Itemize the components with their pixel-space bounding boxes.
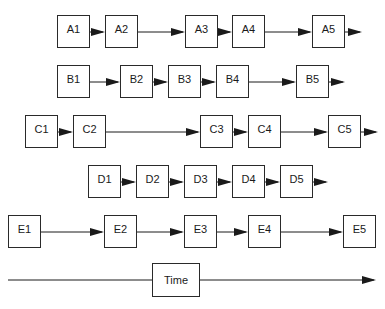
arrow-c5-out-arrowhead-icon — [364, 128, 378, 136]
arrow-c3-to-c4-arrowhead-icon — [234, 128, 248, 136]
process-box-label: A2 — [115, 23, 128, 35]
process-box-c2: C2 — [73, 115, 106, 148]
process-box-label: E3 — [194, 223, 207, 235]
process-box-label: A1 — [67, 23, 80, 35]
process-box-label: C5 — [337, 123, 351, 135]
process-box-d3: D3 — [184, 165, 217, 198]
process-box-label: A3 — [195, 23, 208, 35]
process-box-label: D1 — [97, 173, 111, 185]
arrow-b1-to-b2-arrowhead-icon — [106, 78, 120, 86]
process-box-label: C1 — [34, 123, 48, 135]
process-box-b2: B2 — [120, 65, 153, 98]
process-box-d5: D5 — [280, 165, 313, 198]
process-box-label: C2 — [82, 123, 96, 135]
process-box-e3: E3 — [184, 215, 217, 248]
process-box-label: D4 — [241, 173, 255, 185]
process-box-label: C3 — [209, 123, 223, 135]
process-box-c5: C5 — [328, 115, 361, 148]
arrow-b3-to-b4-arrowhead-icon — [202, 78, 216, 86]
process-box-e5: E5 — [343, 215, 376, 248]
process-box-a5: A5 — [312, 15, 345, 48]
process-box-label: C4 — [257, 123, 271, 135]
process-box-label: B1 — [67, 73, 80, 85]
process-box-label: B3 — [178, 73, 191, 85]
process-box-d2: D2 — [136, 165, 169, 198]
arrow-d2-to-d3-arrowhead-icon — [170, 178, 184, 186]
arrow-e3-to-e4-arrowhead-icon — [234, 228, 248, 236]
process-box-b3: B3 — [168, 65, 201, 98]
arrow-c1-to-c2-arrowhead-icon — [59, 128, 73, 136]
arrow-b2-to-b3-arrowhead-icon — [154, 78, 168, 86]
time-label: Time — [164, 274, 188, 286]
process-box-label: D5 — [289, 173, 303, 185]
process-box-label: D2 — [145, 173, 159, 185]
arrow-a5-out-arrowhead-icon — [348, 28, 362, 36]
arrow-e1-to-e2-arrowhead-icon — [90, 228, 104, 236]
process-box-a2: A2 — [105, 15, 138, 48]
time-axis-arrowhead-icon — [362, 276, 376, 284]
process-box-c1: C1 — [25, 115, 58, 148]
process-box-label: B4 — [226, 73, 239, 85]
arrow-b4-to-b5-arrowhead-icon — [282, 78, 296, 86]
process-box-label: A4 — [242, 23, 255, 35]
process-box-e4: E4 — [248, 215, 281, 248]
process-box-label: D3 — [193, 173, 207, 185]
process-box-label: E4 — [258, 223, 271, 235]
process-box-e2: E2 — [104, 215, 137, 248]
process-box-label: E1 — [18, 223, 31, 235]
process-box-a4: A4 — [232, 15, 265, 48]
process-box-c4: C4 — [248, 115, 281, 148]
time-label-box: Time — [152, 263, 200, 297]
arrow-a1-to-a2-arrowhead-icon — [91, 28, 105, 36]
arrow-d5-out-arrowhead-icon — [314, 178, 328, 186]
arrow-c2-to-c3-arrowhead-icon — [186, 128, 200, 136]
arrow-a2-to-a3-arrowhead-icon — [171, 28, 185, 36]
arrow-e4-to-e5-arrowhead-icon — [329, 228, 343, 236]
process-box-a3: A3 — [185, 15, 218, 48]
arrow-d1-to-d2-arrowhead-icon — [122, 178, 136, 186]
process-box-label: A5 — [322, 23, 335, 35]
arrow-e2-to-e3-arrowhead-icon — [170, 228, 184, 236]
process-box-label: E2 — [114, 223, 127, 235]
arrow-d3-to-d4-arrowhead-icon — [218, 178, 232, 186]
arrow-a3-to-a4-arrowhead-icon — [218, 28, 232, 36]
process-box-e1: E1 — [8, 215, 41, 248]
process-box-d1: D1 — [88, 165, 121, 198]
process-box-b4: B4 — [216, 65, 249, 98]
arrow-a4-to-a5-arrowhead-icon — [298, 28, 312, 36]
process-box-label: E5 — [353, 223, 366, 235]
process-box-label: B5 — [306, 73, 319, 85]
process-box-b5: B5 — [296, 65, 329, 98]
diagram-canvas: A1A2A3A4A5B1B2B3B4B5C1C2C3C4C5D1D2D3D4D5… — [0, 0, 385, 309]
process-box-b1: B1 — [57, 65, 90, 98]
arrow-d4-to-d5-arrowhead-icon — [266, 178, 280, 186]
process-box-a1: A1 — [57, 15, 90, 48]
process-box-c3: C3 — [200, 115, 233, 148]
process-box-d4: D4 — [232, 165, 265, 198]
process-box-label: B2 — [130, 73, 143, 85]
arrow-c4-to-c5-arrowhead-icon — [314, 128, 328, 136]
arrow-b5-out-arrowhead-icon — [331, 78, 345, 86]
